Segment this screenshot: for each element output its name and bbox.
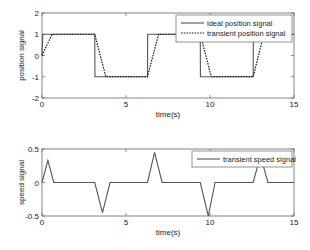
y-axis-label: speed signal: [17, 160, 26, 205]
legend: transient speed signal: [192, 151, 296, 167]
x-tick-label: 15: [290, 218, 299, 227]
y-axis-label: position signal: [17, 30, 26, 81]
legend-entry: transient position signal: [207, 29, 286, 38]
x-tick-label: 5: [124, 218, 129, 227]
x-tick-label: 0: [40, 218, 45, 227]
y-tick-label: 0.5: [28, 145, 40, 154]
y-tick-label: 0: [35, 179, 40, 188]
x-tick-label: 5: [124, 100, 129, 109]
y-tick-label: -1: [32, 73, 40, 82]
legend: ideal position signaltransient position …: [176, 15, 292, 42]
x-axis-label: time(s): [156, 228, 181, 237]
x-tick-label: 10: [206, 218, 215, 227]
legend-entry: transient speed signal: [223, 155, 296, 164]
subplot-1: 051015-2-1012time(s)position signalideal…: [17, 9, 299, 119]
x-tick-label: 15: [290, 100, 299, 109]
x-axis-label: time(s): [156, 110, 181, 119]
y-tick-label: 0: [35, 52, 40, 61]
subplot-2: 051015-0.500.5time(s)speed signaltransie…: [17, 145, 299, 237]
y-tick-label: 2: [35, 9, 40, 18]
x-tick-label: 0: [40, 100, 45, 109]
legend-entry: ideal position signal: [207, 19, 273, 28]
y-tick-label: -0.5: [25, 212, 39, 221]
y-tick-label: 1: [35, 30, 40, 39]
chart-figure: 051015-2-1012time(s)position signalideal…: [0, 0, 310, 250]
x-tick-label: 10: [206, 100, 215, 109]
y-tick-label: -2: [32, 94, 40, 103]
